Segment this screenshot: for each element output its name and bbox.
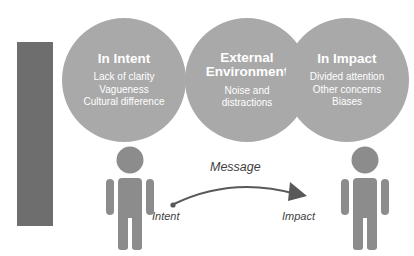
- circle-in-impact-title: In Impact: [317, 52, 376, 67]
- circle-in-intent-title: In Intent: [98, 52, 151, 67]
- person-sender-icon: [104, 146, 156, 254]
- circle-external-environment-items: Noise and distractions: [222, 85, 273, 109]
- circle-in-impact: In Impact Divided attention Other concer…: [285, 18, 409, 142]
- person-receiver-icon: [339, 146, 391, 254]
- message-label: Message: [210, 160, 261, 174]
- barriers-label: Barriers: [17, 0, 53, 78]
- circle-external-environment-title: External Environment: [206, 51, 289, 80]
- intent-label: Intent: [152, 210, 180, 222]
- impact-label: Impact: [282, 210, 315, 222]
- circle-in-intent: In Intent Lack of clarity Vagueness Cult…: [62, 18, 186, 142]
- circle-in-impact-items: Divided attention Other concerns Biases: [310, 71, 385, 108]
- circle-in-intent-items: Lack of clarity Vagueness Cultural diffe…: [84, 71, 165, 108]
- diagram-canvas: Barriers In Intent Lack of clarity Vague…: [0, 0, 414, 256]
